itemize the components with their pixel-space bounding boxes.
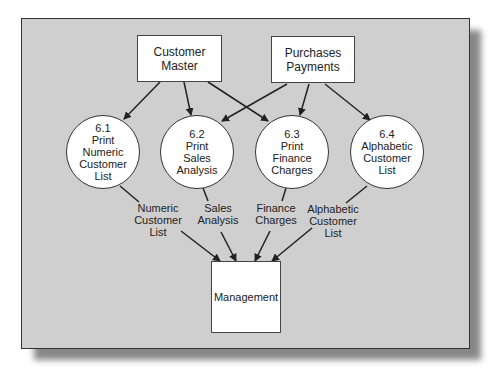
- flow-text: Sales: [198, 202, 239, 214]
- flow-text: Customer: [134, 214, 182, 226]
- flow-text: List: [307, 227, 358, 239]
- arrow-finance-to-mgmt: [255, 231, 270, 261]
- flow-text: Charges: [255, 214, 297, 226]
- flow-label-finance-charges: Finance Charges: [255, 202, 297, 226]
- arrow-pp-to-6-3: [300, 84, 309, 115]
- process-text: 6.3: [284, 128, 299, 140]
- arrow-pp-to-6-2: [222, 84, 287, 121]
- sink-management: Management: [211, 261, 281, 333]
- flow-text: Alphabetic: [307, 203, 358, 215]
- process-text: 6.2: [189, 128, 204, 140]
- arrow-numeric-to-mgmt: [181, 231, 220, 261]
- process-text: Charges: [271, 164, 313, 176]
- process-text: 6.1: [95, 122, 110, 134]
- flow-text: Customer: [307, 215, 358, 227]
- process-6-3: 6.3 Print Finance Charges: [255, 115, 329, 189]
- process-text: Analysis: [177, 164, 218, 176]
- process-text: Print: [92, 134, 115, 146]
- flow-label-sales-analysis: Sales Analysis: [198, 202, 239, 226]
- flow-label-numeric-customer-list: Numeric Customer List: [134, 202, 182, 238]
- flow-text: Finance: [255, 202, 297, 214]
- arrow-sales-to-mgmt: [221, 232, 236, 261]
- process-text: Print: [186, 140, 209, 152]
- process-6-2: 6.2 Print Sales Analysis: [160, 115, 234, 189]
- process-text: Sales: [183, 152, 211, 164]
- process-text: Numeric: [83, 146, 124, 158]
- flow-text: Analysis: [198, 214, 239, 226]
- arrow-cm-to-6-3: [208, 82, 268, 121]
- process-text: List: [94, 170, 111, 182]
- arrow-cm-to-6-1: [124, 82, 160, 119]
- flow-text: Numeric: [134, 202, 182, 214]
- process-text: Finance: [272, 152, 311, 164]
- flow-label-alphabetic-customer-list: Alphabetic Customer List: [307, 203, 358, 239]
- process-text: Customer: [79, 158, 127, 170]
- flow-text: List: [134, 226, 182, 238]
- process-6-4: 6.4 Alphabetic Customer List: [350, 115, 424, 189]
- process-text: Customer: [363, 152, 411, 164]
- box-text: Management: [214, 290, 278, 304]
- process-text: Print: [281, 140, 304, 152]
- arrow-pp-to-6-4: [325, 84, 370, 120]
- box-text: Master: [153, 59, 205, 73]
- arrow-cm-to-6-2: [184, 82, 191, 115]
- process-text: Alphabetic: [361, 140, 412, 152]
- box-text: Payments: [285, 60, 342, 74]
- process-text: 6.4: [379, 128, 394, 140]
- process-text: List: [378, 164, 395, 176]
- source-purchases-payments: Purchases Payments: [271, 36, 355, 83]
- arrow-alpha-to-mgmt: [272, 228, 312, 261]
- process-6-1: 6.1 Print Numeric Customer List: [66, 115, 140, 189]
- box-text: Customer: [153, 45, 205, 59]
- box-text: Purchases: [285, 46, 342, 60]
- source-customer-master: Customer Master: [137, 35, 222, 82]
